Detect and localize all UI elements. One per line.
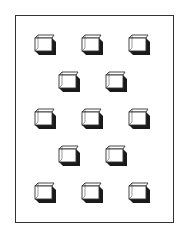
cube-icon xyxy=(127,34,151,56)
cube-icon xyxy=(80,34,104,56)
cube-icon xyxy=(33,34,57,56)
cube-icon xyxy=(80,182,104,204)
cube-icon xyxy=(80,108,104,130)
cube-icon xyxy=(127,108,151,130)
cube-icon xyxy=(57,71,81,93)
cube-icon xyxy=(33,108,57,130)
cube-icon xyxy=(33,182,57,204)
cube-icon xyxy=(57,145,81,167)
cube-icon xyxy=(127,182,151,204)
cube-icon xyxy=(104,71,128,93)
cube-icon xyxy=(104,145,128,167)
